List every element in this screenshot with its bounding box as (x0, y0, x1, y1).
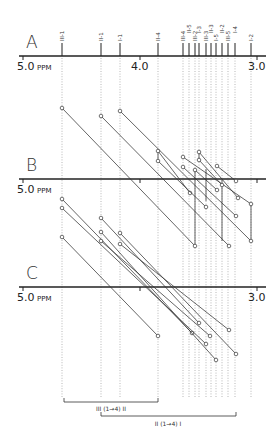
correlation-line (199, 160, 222, 185)
peak-label: II-3 (208, 24, 214, 33)
end-point (227, 244, 231, 248)
peak-labels: III-1II-1I-1II-4III-4II-5III-2I-3III-3II… (59, 24, 254, 41)
end-point (234, 352, 238, 356)
axis-unit: PPM (37, 64, 51, 72)
start-point (99, 230, 103, 234)
peak-label: I-4 (232, 25, 238, 33)
start-point (118, 109, 122, 113)
axis-label-3: 3.0 (248, 60, 266, 73)
peak-label: II-4 (155, 32, 161, 41)
start-point (193, 168, 197, 172)
axis-label-5: 5.0 (17, 60, 35, 73)
correlation-line (62, 199, 192, 333)
start-point (118, 242, 122, 246)
start-point (181, 165, 185, 169)
start-point (60, 206, 64, 210)
ppm-axes: A5.0PPM4.03.0B5.0PPMC5.0PPM3.0 (17, 32, 266, 304)
correlation-line (120, 233, 236, 354)
correlation-line (101, 241, 210, 336)
correlation-line (120, 111, 251, 241)
peak-label: III-5 (225, 30, 231, 41)
start-point (197, 158, 201, 162)
end-point (208, 334, 212, 338)
end-point (234, 179, 238, 183)
start-point (181, 155, 185, 159)
panel-letter: B (26, 155, 37, 175)
peak-label: II-1 (98, 32, 104, 41)
peak-ticks (62, 43, 251, 56)
axis-unit: PPM (37, 295, 51, 303)
end-point (249, 202, 253, 206)
start-point (156, 149, 160, 153)
end-point (227, 328, 231, 332)
end-point (234, 214, 238, 218)
end-point (197, 321, 201, 325)
start-point (215, 164, 219, 168)
end-point (193, 244, 197, 248)
axis-label-5: 5.0 (17, 183, 35, 196)
peak-label: I-3 (196, 25, 202, 33)
panel-letter: A (26, 32, 38, 52)
axis-label-5: 5.0 (17, 291, 35, 304)
start-point (118, 231, 122, 235)
start-point (99, 239, 103, 243)
peak-label: I-5 (213, 33, 219, 41)
axis-unit: PPM (37, 187, 51, 195)
start-point (60, 106, 64, 110)
bracket (64, 398, 158, 402)
end-point (156, 334, 160, 338)
start-point (197, 150, 201, 154)
peak-label: I-1 (117, 34, 123, 41)
end-point (220, 183, 224, 187)
axis-label-3: 3.0 (248, 291, 266, 304)
start-point (156, 159, 160, 163)
start-point (99, 114, 103, 118)
correlation-line (101, 218, 199, 323)
bracket (101, 412, 236, 416)
brackets: III (1→4) IIII (1→4) I (64, 398, 236, 427)
nmr-correlation-diagram: A5.0PPM4.03.0B5.0PPMC5.0PPM3.0 III-1II-1… (0, 0, 280, 446)
end-point (204, 342, 208, 346)
end-point (204, 205, 208, 209)
start-point (60, 235, 64, 239)
end-point (249, 239, 253, 243)
end-point (214, 358, 218, 362)
peak-label: III-1 (59, 31, 65, 41)
axis-label-4: 4.0 (131, 60, 149, 73)
end-point (215, 188, 219, 192)
peak-label: I-2 (248, 34, 254, 41)
correlation-line (62, 208, 206, 344)
bracket-label: II (1→4) I (155, 420, 182, 427)
bracket-label: III (1→4) II (96, 405, 126, 412)
start-point (99, 216, 103, 220)
panel-letter: C (26, 263, 38, 283)
end-point (236, 196, 240, 200)
start-point (60, 197, 64, 201)
